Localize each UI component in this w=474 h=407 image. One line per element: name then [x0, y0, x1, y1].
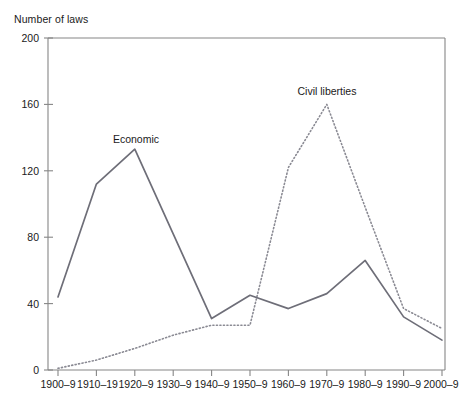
series-line-economic — [58, 149, 442, 340]
x-tick-marks — [58, 370, 442, 376]
series-annotation-economic: Economic — [113, 133, 159, 145]
y-tick-label-160: 160 — [21, 98, 39, 110]
x-tick-label-1940-9: 1940–9 — [194, 378, 229, 390]
y-tick-label-40: 40 — [27, 298, 39, 310]
y-tick-label-200: 200 — [21, 32, 39, 44]
series-annotation-civil-liberties: Civil liberties — [298, 85, 357, 97]
line-chart-plot: 200 160 120 80 40 0 1900–9 1910–19 1920–… — [0, 0, 474, 407]
x-tick-label-1990-9: 1990–9 — [386, 378, 421, 390]
y-tick-labels: 200 160 120 80 40 0 — [21, 32, 39, 376]
x-tick-labels: 1900–9 1910–19 1920–9 1930–9 1940–9 1950… — [40, 378, 458, 390]
axes — [48, 38, 445, 370]
x-tick-label-1970-9: 1970–9 — [309, 378, 344, 390]
x-tick-label-1960-9: 1960–9 — [271, 378, 306, 390]
x-tick-label-1910-19: 1910–19 — [77, 378, 118, 390]
x-tick-label-1930-9: 1930–9 — [156, 378, 191, 390]
x-tick-label-1950-9: 1950–9 — [232, 378, 267, 390]
x-tick-label-1900-9: 1900–9 — [40, 378, 75, 390]
x-tick-label-2000-9: 2000–9 — [423, 378, 458, 390]
x-tick-label-1920-9: 1920–9 — [118, 378, 153, 390]
chart-figure: Number of laws 200 160 120 80 40 0 — [0, 0, 474, 407]
y-tick-label-0: 0 — [33, 364, 39, 376]
y-tick-label-80: 80 — [27, 231, 39, 243]
y-tick-label-120: 120 — [21, 165, 39, 177]
x-tick-label-1980-9: 1980–9 — [348, 378, 383, 390]
